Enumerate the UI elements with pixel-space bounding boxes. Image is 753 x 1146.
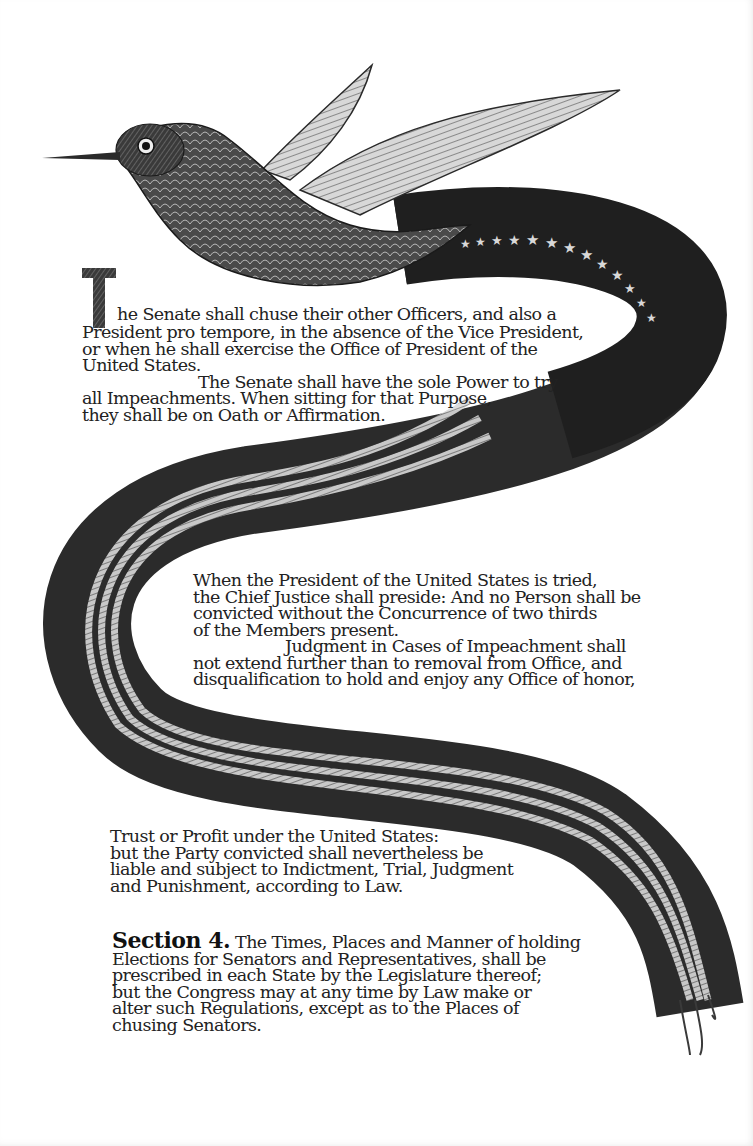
svg-text:★: ★ (596, 256, 609, 272)
svg-text:★: ★ (646, 311, 657, 325)
svg-text:★: ★ (636, 296, 647, 310)
svg-text:★: ★ (475, 235, 486, 249)
passage-impeachment-trial: When the President of the United States … (193, 572, 641, 688)
svg-text:★: ★ (508, 232, 521, 248)
text-line: and Punishment, according to Law. (110, 878, 513, 895)
svg-text:★: ★ (624, 281, 636, 296)
svg-text:★: ★ (491, 233, 503, 248)
text-line: they shall be on Oath or Affirmation. (82, 407, 583, 424)
svg-text:★: ★ (526, 231, 539, 249)
section-4-heading-line: Section 4. The Times, Places and Manner … (112, 932, 580, 951)
drop-cap-T (82, 268, 116, 328)
text-line: he Senate shall chuse their other Office… (117, 306, 556, 323)
document-page: ★ ★ ★ ★ ★ ★ ★ ★ ★ ★ ★ ★ ★ (0, 0, 753, 1146)
passage-impeachment-judgment: Trust or Profit under the United States:… (110, 828, 513, 894)
text-line: chusing Senators. (112, 1017, 580, 1034)
passage-senate-officers: he Senate shall chuse their other Office… (117, 306, 556, 323)
svg-text:★: ★ (580, 246, 593, 264)
text-line: disqualification to hold and enjoy any O… (193, 671, 641, 688)
svg-text:★: ★ (545, 234, 558, 252)
svg-text:★: ★ (460, 237, 471, 251)
svg-text:★: ★ (611, 267, 624, 283)
passage-senate-officers-cont: President pro tempore, in the absence of… (82, 324, 583, 423)
svg-text:★: ★ (563, 239, 576, 257)
section-4: Section 4. The Times, Places and Manner … (112, 932, 580, 1033)
